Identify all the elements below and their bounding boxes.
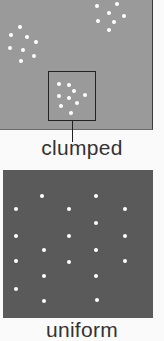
clumped-individual-dot (67, 96, 71, 100)
uniform-individual-dot (42, 274, 46, 278)
uniform-individual-dot (94, 248, 98, 252)
clumped-individual-dot (59, 104, 63, 108)
clumped-individual-dot (75, 101, 79, 105)
uniform-individual-dot (94, 194, 98, 198)
clumped-label: clumped (0, 136, 164, 160)
clumped-individual-dot (57, 94, 61, 98)
clumped-individual-dot (72, 89, 76, 93)
uniform-individual-dot (14, 287, 18, 291)
uniform-label: uniform (0, 318, 164, 341)
clumped-individual-dot (32, 54, 36, 58)
uniform-individual-dot (14, 234, 18, 238)
uniform-individual-dot (14, 207, 18, 211)
uniform-distribution-panel (3, 170, 153, 318)
clumped-individual-dot (9, 33, 13, 37)
uniform-individual-dot (67, 260, 71, 264)
clumped-individual-dot (115, 2, 119, 6)
clumped-individual-dot (18, 25, 22, 29)
uniform-individual-dot (94, 274, 98, 278)
uniform-individual-dot (94, 221, 98, 225)
clumped-individual-dot (83, 93, 87, 97)
clumped-individual-dot (8, 46, 12, 50)
clumped-individual-dot (25, 35, 29, 39)
clumped-individual-dot (57, 82, 61, 86)
clumped-individual-dot (69, 111, 73, 115)
clumped-individual-dot (21, 48, 25, 52)
uniform-individual-dot (67, 234, 71, 238)
uniform-individual-dot (95, 298, 99, 302)
uniform-individual-dot (42, 299, 46, 303)
clumped-individual-dot (122, 14, 126, 18)
clumped-individual-dot (107, 28, 111, 32)
uniform-individual-dot (42, 248, 46, 252)
clumped-individual-dot (34, 40, 38, 44)
clumped-individual-dot (96, 19, 100, 23)
clumped-individual-dot (19, 59, 23, 63)
uniform-individual-dot (14, 259, 18, 263)
uniform-individual-dot (67, 207, 71, 211)
uniform-individual-dot (40, 194, 44, 198)
uniform-individual-dot (123, 234, 127, 238)
clumped-individual-dot (107, 11, 111, 15)
uniform-individual-dot (123, 259, 127, 263)
clumped-individual-dot (67, 83, 71, 87)
clumped-individual-dot (112, 20, 116, 24)
uniform-individual-dot (123, 207, 127, 211)
clumped-individual-dot (95, 4, 99, 8)
